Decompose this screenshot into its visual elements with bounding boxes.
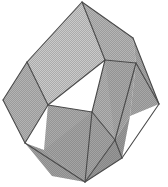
figure-canvas [0,0,168,187]
polyhedron-illustration [0,0,168,187]
